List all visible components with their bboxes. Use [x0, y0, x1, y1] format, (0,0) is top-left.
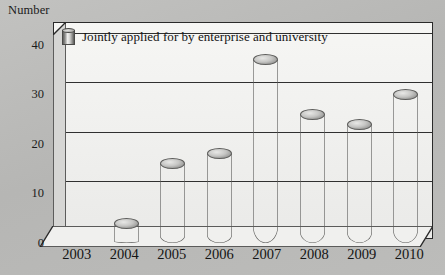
bar-cap: [160, 158, 185, 169]
bar-2010: [393, 94, 418, 243]
y-tick-label-20: 20: [14, 136, 44, 151]
bar-body: [253, 60, 278, 243]
bar-body: [347, 124, 372, 243]
x-tick-label-2010: 2010: [379, 246, 439, 263]
y-tick-label-40: 40: [14, 37, 44, 52]
cylinder-bar-icon: [62, 30, 75, 45]
bar-cap: [347, 119, 372, 130]
y-tick-label-10: 10: [14, 186, 44, 201]
bar-body: [393, 94, 418, 243]
bar-2004: [114, 223, 139, 243]
bars-layer: [53, 22, 433, 239]
bar-2008: [300, 114, 325, 243]
bar-body: [300, 114, 325, 243]
y-tick-label-30: 30: [14, 87, 44, 102]
bar-cap: [253, 54, 278, 65]
bar-2006: [207, 154, 232, 243]
bar-cap: [114, 218, 139, 229]
bar-body: [207, 154, 232, 243]
bar-body: [114, 223, 139, 243]
legend-label: Jointly applied for by enterprise and un…: [82, 29, 328, 45]
bar-body: [160, 164, 185, 243]
x-axis-labels: 20032004200520062007200820092010: [0, 246, 445, 272]
bar-cap: [207, 148, 232, 159]
y-axis-labels: 010203040: [6, 0, 44, 275]
bar-chart: Number 010203040 20032004200520062007200…: [0, 0, 445, 275]
bar-2007: [253, 60, 278, 243]
bar-2005: [160, 164, 185, 243]
bar-cap: [393, 89, 418, 100]
bar-cap: [300, 109, 325, 120]
bar-2009: [347, 124, 372, 243]
legend: Jointly applied for by enterprise and un…: [62, 29, 328, 45]
